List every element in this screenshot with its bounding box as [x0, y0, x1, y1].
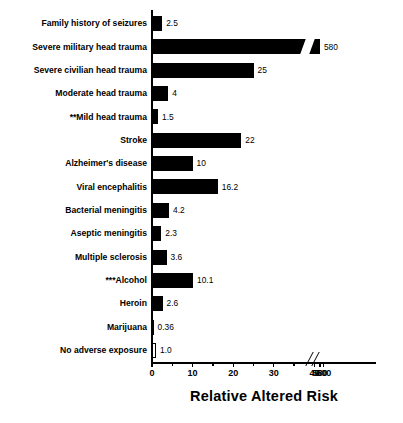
- category-label-text: Severe civilian head trauma: [34, 66, 147, 75]
- category-label-text: Multiple sclerosis: [75, 253, 147, 262]
- bar-value-label: 16.2: [222, 183, 238, 191]
- bar-value-label: 2.5: [166, 19, 178, 27]
- x-tick: [273, 362, 274, 367]
- category-label: No adverse exposure: [0, 339, 147, 362]
- bar-cell: 2.3: [152, 222, 177, 245]
- bar-row: Stroke22: [0, 129, 403, 152]
- category-label: Viral encephalitis: [0, 175, 147, 198]
- bar-value-label: 580: [324, 43, 338, 51]
- x-axis-title: Relative Altered Risk: [152, 389, 376, 404]
- x-minor-tick: [253, 362, 254, 366]
- bar: [152, 179, 218, 194]
- category-label-text: No adverse exposure: [60, 346, 147, 355]
- category-label: Severe civilian head trauma: [0, 59, 147, 82]
- relative-altered-risk-chart: Family history of seizures2.5Severe mili…: [0, 0, 403, 423]
- x-tick-label: 600: [316, 369, 331, 378]
- bar-value-label: 1.0: [160, 346, 172, 354]
- axis-break-marker: [305, 352, 323, 366]
- bar-cell: 0.36: [152, 316, 174, 339]
- x-tick: [233, 362, 234, 367]
- category-label-text: Severe military head trauma: [32, 43, 147, 52]
- category-label-text: Moderate head trauma: [55, 89, 147, 98]
- bar-value-label: 0.36: [158, 323, 174, 331]
- bar-cell: 10.1: [152, 269, 213, 292]
- x-tick-label: 10: [188, 369, 198, 378]
- bar-row: Severe military head trauma580: [0, 35, 403, 58]
- x-minor-tick: [293, 362, 294, 366]
- bar-value-label: 4.2: [173, 206, 185, 214]
- bar-row: Alzheimer's disease10: [0, 152, 403, 175]
- bar: [152, 203, 169, 218]
- bar-cell: 580: [152, 35, 338, 58]
- x-minor-tick: [172, 362, 173, 366]
- bar-row: Aseptic meningitis2.3: [0, 222, 403, 245]
- bar-cell: 2.6: [152, 292, 178, 315]
- bar: [152, 86, 168, 101]
- bar-value-label: 25: [258, 66, 267, 74]
- bar-cell: 16.2: [152, 175, 238, 198]
- category-label-text: ***Alcohol: [105, 276, 147, 285]
- category-label-text: Viral encephalitis: [76, 183, 147, 192]
- bar: [152, 250, 167, 265]
- category-label: Alzheimer's disease: [0, 152, 147, 175]
- bar: [152, 39, 320, 54]
- bar-row: Bacterial meningitis4.2: [0, 199, 403, 222]
- bar: [152, 343, 156, 358]
- bar: [152, 109, 158, 124]
- category-label-text: Family history of seizures: [41, 19, 147, 28]
- bar-cell: 22: [152, 129, 255, 152]
- bar-cell: 1.5: [152, 105, 174, 128]
- bar-value-label: 1.5: [162, 113, 174, 121]
- bar-cell: 4: [152, 82, 177, 105]
- bar-cell: 2.5: [152, 12, 178, 35]
- bar: [152, 16, 162, 31]
- category-label-text: Stroke: [120, 136, 147, 145]
- bar-value-label: 3.6: [171, 253, 183, 261]
- bar-row: Moderate head trauma4: [0, 82, 403, 105]
- category-label: Family history of seizures: [0, 12, 147, 35]
- bar: [152, 296, 163, 311]
- bar-row: Viral encephalitis16.2: [0, 175, 403, 198]
- x-minor-tick: [212, 362, 213, 366]
- bar: [152, 226, 161, 241]
- category-label-text: Alzheimer's disease: [65, 159, 147, 168]
- bar-cell: 3.6: [152, 246, 182, 269]
- category-label: Marijuana: [0, 316, 147, 339]
- category-label-text: Heroin: [120, 299, 147, 308]
- bar-row: Family history of seizures2.5: [0, 12, 403, 35]
- x-tick-label: 20: [228, 369, 238, 378]
- bar-cell: 1.0: [152, 339, 172, 362]
- category-label: **Mild head trauma: [0, 105, 147, 128]
- bar: [152, 63, 254, 78]
- category-label: Heroin: [0, 292, 147, 315]
- bar-row: ***Alcohol10.1: [0, 269, 403, 292]
- x-tick: [323, 362, 324, 367]
- bar-row: **Mild head trauma1.5: [0, 105, 403, 128]
- bar-value-label: 10.1: [197, 276, 213, 284]
- x-tick: [192, 362, 193, 367]
- category-label: Multiple sclerosis: [0, 246, 147, 269]
- bar-cell: 25: [152, 59, 267, 82]
- bar-row: Multiple sclerosis3.6: [0, 246, 403, 269]
- x-axis-line: [152, 362, 376, 364]
- bar-row: No adverse exposure1.0: [0, 339, 403, 362]
- bar-value-label: 22: [245, 136, 254, 144]
- x-tick-label: 0: [149, 369, 154, 378]
- bar-cell: 4.2: [152, 199, 185, 222]
- bar-cell: 10: [152, 152, 206, 175]
- category-label: Moderate head trauma: [0, 82, 147, 105]
- category-label: Stroke: [0, 129, 147, 152]
- bar-value-label: 2.3: [165, 229, 177, 237]
- category-label-text: Marijuana: [107, 323, 147, 332]
- bar: [152, 273, 193, 288]
- category-label: Bacterial meningitis: [0, 199, 147, 222]
- x-tick: [151, 362, 152, 367]
- category-label: ***Alcohol: [0, 269, 147, 292]
- bar-row: Severe civilian head trauma25: [0, 59, 403, 82]
- category-label-text: **Mild head trauma: [70, 113, 147, 122]
- category-label: Severe military head trauma: [0, 35, 147, 58]
- bar-value-label: 4: [172, 89, 177, 97]
- bar: [152, 133, 241, 148]
- category-label: Aseptic meningitis: [0, 222, 147, 245]
- bar-row: Marijuana0.36: [0, 316, 403, 339]
